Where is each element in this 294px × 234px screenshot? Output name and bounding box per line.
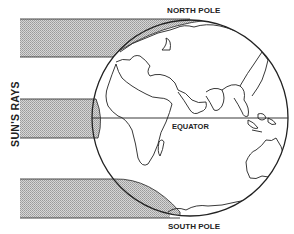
suns-rays-label: SUN'S RAYS xyxy=(9,79,21,149)
earth-sun-rays-diagram xyxy=(0,0,294,234)
north-pole-label: NORTH POLE xyxy=(167,6,220,15)
middle-ray-band xyxy=(20,99,100,138)
equator-label: EQUATOR xyxy=(172,122,209,131)
south-pole-label: SOUTH POLE xyxy=(168,222,220,231)
